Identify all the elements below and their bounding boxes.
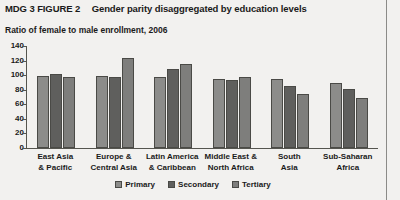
bar xyxy=(122,58,134,148)
category-label: Sub-SaharanAfrica xyxy=(313,152,384,173)
y-tick-label: 0 xyxy=(0,144,24,152)
bar-group xyxy=(144,46,203,148)
y-tick-label: 100 xyxy=(0,71,24,79)
bar xyxy=(213,79,225,148)
legend-item[interactable]: Secondary xyxy=(168,180,219,189)
bar xyxy=(180,64,192,149)
bar xyxy=(37,76,49,148)
bar-groups xyxy=(27,46,378,148)
y-axis-tick xyxy=(22,119,26,120)
page-edge-rule xyxy=(386,0,387,200)
figure-subtitle: Ratio of female to male enrollment, 2006 xyxy=(5,25,168,35)
y-axis-tick xyxy=(22,133,26,134)
bar xyxy=(343,89,355,148)
category-labels: East Asia& PacificEurope &Central AsiaLa… xyxy=(26,152,378,178)
figure-heading: MDG 3 FIGURE 2 Gender parity disaggregat… xyxy=(5,3,307,14)
bar xyxy=(330,83,342,148)
bar-group xyxy=(86,46,145,148)
legend-item[interactable]: Primary xyxy=(115,180,155,189)
bar xyxy=(356,98,368,148)
plot-area xyxy=(26,46,378,148)
y-axis-tick xyxy=(22,90,26,91)
bar-group xyxy=(27,46,86,148)
bar-group xyxy=(203,46,262,148)
x-axis-line xyxy=(26,148,378,149)
y-tick-label: 40 xyxy=(0,115,24,123)
legend-swatch-icon xyxy=(115,181,122,188)
y-tick-label: 20 xyxy=(0,129,24,137)
legend-swatch-icon xyxy=(168,181,175,188)
legend-label: Primary xyxy=(125,180,155,189)
y-tick-label: 140 xyxy=(0,42,24,50)
y-tick-label: 60 xyxy=(0,100,24,108)
bar xyxy=(284,86,296,148)
bar-group xyxy=(320,46,379,148)
category-label-line: Sub-Saharan xyxy=(313,152,384,163)
bar xyxy=(96,76,108,148)
bar xyxy=(297,94,309,148)
legend-item[interactable]: Tertiary xyxy=(232,180,271,189)
category-label-line: Africa xyxy=(313,163,384,174)
bar xyxy=(226,80,238,148)
bar xyxy=(63,77,75,148)
legend-label: Secondary xyxy=(178,180,219,189)
bar xyxy=(109,77,121,148)
bar-group xyxy=(261,46,320,148)
y-tick-label: 120 xyxy=(0,57,24,65)
figure-title: Gender parity disaggregated by education… xyxy=(92,3,307,14)
y-axis-tick xyxy=(22,148,26,149)
y-axis-tick xyxy=(22,46,26,47)
y-axis-tick xyxy=(22,104,26,105)
y-axis-tick xyxy=(22,61,26,62)
figure-number-label: MDG 3 FIGURE 2 xyxy=(5,3,80,14)
legend-swatch-icon xyxy=(232,181,239,188)
bar xyxy=(239,77,251,148)
legend-label: Tertiary xyxy=(242,180,271,189)
bar xyxy=(167,69,179,148)
chart-legend: PrimarySecondaryTertiary xyxy=(0,180,386,189)
y-axis-tick xyxy=(22,75,26,76)
bar xyxy=(271,79,283,148)
y-tick-label: 80 xyxy=(0,86,24,94)
figure-container: MDG 3 FIGURE 2 Gender parity disaggregat… xyxy=(0,0,400,200)
bar xyxy=(50,74,62,148)
bar xyxy=(154,77,166,148)
